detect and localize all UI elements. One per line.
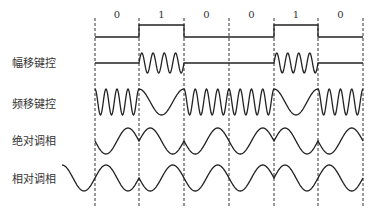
label-ask: 幅移键控 [12, 54, 56, 70]
bit-label-3: 0 [248, 9, 254, 20]
bit-label-1: 1 [158, 9, 164, 20]
bit-label-4: 1 [293, 9, 299, 20]
label-psk-absolute: 绝对调相 [12, 132, 56, 148]
bit-label-2: 0 [203, 9, 209, 20]
bit-label-5: 0 [337, 9, 343, 20]
label-fsk: 频移键控 [12, 95, 56, 111]
bit-label-0: 0 [114, 9, 120, 20]
modulation-diagram [0, 0, 375, 217]
label-psk-relative: 相对调相 [12, 170, 56, 186]
fsk-waveform [95, 89, 363, 115]
